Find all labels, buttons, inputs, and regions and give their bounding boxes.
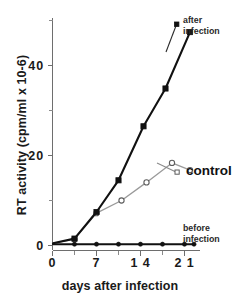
annotation-before-infection-line2: infection [183, 234, 220, 245]
series-control-markers [72, 160, 193, 242]
series-after-markers [72, 30, 193, 242]
series-after-line [53, 32, 190, 243]
chart-figure: 0 7 1 4 2 1 0 20 40 days after infection… [0, 0, 240, 302]
x-tick-label-7: 7 [93, 256, 101, 270]
x-tick-label-14: 1 4 [130, 256, 150, 270]
x-tick-label-0: 0 [49, 256, 57, 270]
annotation-after-infection-line2: infection [183, 26, 220, 37]
x-axis-ticks [53, 251, 185, 257]
y-axis-ticks [48, 21, 53, 246]
x-axis-title: days after infection [0, 279, 240, 293]
control-annotation-marker [175, 170, 179, 174]
y-axis-title: RT activity (cpm/ml x 10-6) [15, 25, 29, 245]
annotation-after-infection-line1: after [183, 15, 202, 26]
after-annotation-leader [166, 25, 177, 53]
annotation-before-infection-line1: before [183, 223, 210, 234]
after-annotation-marker [175, 22, 179, 26]
annotation-control: control [186, 165, 232, 176]
x-tick-label-21: 2 1 [174, 256, 194, 270]
